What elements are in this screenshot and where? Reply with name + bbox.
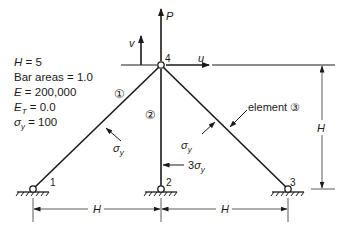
node-1-label: 1 bbox=[50, 177, 56, 189]
node-2-label: 2 bbox=[166, 177, 172, 189]
node-4 bbox=[158, 62, 164, 68]
param-sigma-symbol: σ bbox=[14, 116, 21, 128]
stress-center-subscript: y bbox=[201, 165, 205, 174]
stress-right-symbol: σ bbox=[181, 139, 188, 151]
param-et-value: = 0.0 bbox=[27, 101, 56, 113]
param-h-value: = 5 bbox=[22, 56, 42, 68]
param-bar-areas-value: Bar areas = 1.0 bbox=[14, 71, 93, 83]
param-e: E = 200,000 bbox=[14, 85, 76, 99]
disp-v-label: v bbox=[129, 37, 135, 49]
stress-right-label: σy bbox=[181, 139, 192, 156]
stress-center-label: 3σy bbox=[188, 159, 205, 176]
node-4-label: 4 bbox=[165, 53, 171, 65]
node-1 bbox=[30, 186, 36, 192]
truss-diagram: H = 5 Bar areas = 1.0 E = 200,000 ET = 0… bbox=[0, 0, 345, 229]
node-3-label: 3 bbox=[290, 177, 296, 189]
dimension-right-label: H bbox=[219, 203, 231, 215]
param-h: H = 5 bbox=[14, 55, 42, 69]
disp-u-label: u bbox=[198, 52, 204, 64]
param-e-value: = 200,000 bbox=[22, 86, 77, 98]
load-p-label: P bbox=[166, 10, 173, 22]
node-2 bbox=[158, 186, 164, 192]
element-3-callout: element ③ bbox=[248, 101, 300, 113]
param-sigma-value: = 100 bbox=[25, 116, 57, 128]
dimension-height-label: H bbox=[316, 121, 326, 135]
dimension-bottom bbox=[33, 198, 288, 222]
stress-arrow-right bbox=[202, 122, 215, 134]
stress-left-subscript: y bbox=[120, 148, 124, 157]
param-sigma-y: σy = 100 bbox=[14, 115, 57, 134]
stress-arrow-left bbox=[106, 128, 121, 141]
param-bar-areas: Bar areas = 1.0 bbox=[14, 70, 93, 84]
element-1-label: ① bbox=[114, 88, 125, 100]
element-2-label: ② bbox=[145, 109, 156, 121]
dimension-left-label: H bbox=[91, 203, 103, 215]
stress-center-symbol: σ bbox=[194, 159, 201, 171]
stress-right-subscript: y bbox=[188, 145, 192, 154]
bar-element-3 bbox=[163, 67, 288, 189]
stress-left-label: σy bbox=[113, 142, 124, 159]
param-et-symbol: E bbox=[14, 101, 22, 113]
stress-left-symbol: σ bbox=[113, 142, 120, 154]
param-e-symbol: E bbox=[14, 86, 22, 98]
element-3-leader bbox=[230, 110, 247, 127]
